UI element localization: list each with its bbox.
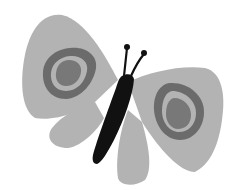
butterfly-illustration <box>0 0 233 190</box>
butterfly-graphic <box>0 0 233 190</box>
